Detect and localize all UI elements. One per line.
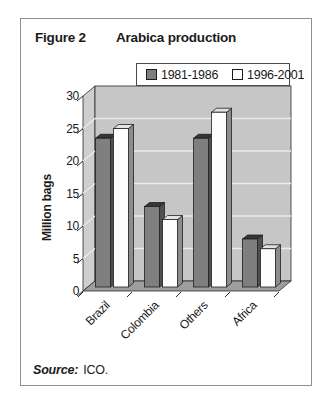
x-tick bbox=[127, 292, 132, 297]
legend-label: 1981-1986 bbox=[161, 68, 218, 82]
x-tick bbox=[225, 292, 230, 297]
legend-swatch-icon bbox=[232, 69, 243, 80]
x-category-label: Colombia bbox=[118, 298, 162, 342]
bar-others-1981-1986 bbox=[194, 134, 214, 287]
bar-others-1996-2001 bbox=[212, 108, 232, 287]
source-value: ICO. bbox=[83, 363, 108, 377]
y-tick-label: 25 bbox=[66, 122, 79, 136]
y-axis-title: Million bags bbox=[39, 158, 54, 258]
legend-swatch-icon bbox=[146, 69, 157, 80]
figure-panel: Figure 2 Arabica production 051015202530… bbox=[0, 0, 322, 399]
legend-item: 1996-2001 bbox=[232, 68, 304, 82]
bar-africa-1996-2001 bbox=[261, 245, 281, 287]
legend-label: 1996-2001 bbox=[247, 68, 304, 82]
y-tick-label: 20 bbox=[66, 154, 79, 168]
x-tick bbox=[274, 292, 279, 297]
y-tick-label: 30 bbox=[66, 89, 79, 103]
legend: 1981-1986 1996-2001 bbox=[136, 63, 290, 86]
source-label: Source: bbox=[33, 363, 78, 377]
source-line: Source:ICO. bbox=[33, 363, 108, 377]
bar-africa-1981-1986 bbox=[243, 235, 263, 287]
legend-item: 1981-1986 bbox=[146, 68, 218, 82]
x-category-label: Africa bbox=[229, 298, 260, 329]
y-tick-label: 15 bbox=[66, 187, 79, 201]
y-tick-label: 5 bbox=[73, 252, 80, 266]
x-category-label: Brazil bbox=[83, 298, 113, 328]
bar-colombia-1981-1986 bbox=[145, 203, 165, 288]
y-tick-label: 10 bbox=[66, 219, 79, 233]
bar-brazil-1981-1986 bbox=[96, 134, 116, 287]
bar-colombia-1996-2001 bbox=[163, 216, 183, 288]
x-category-label: Others bbox=[177, 298, 211, 332]
bar-brazil-1996-2001 bbox=[114, 125, 134, 288]
x-tick bbox=[176, 292, 181, 297]
